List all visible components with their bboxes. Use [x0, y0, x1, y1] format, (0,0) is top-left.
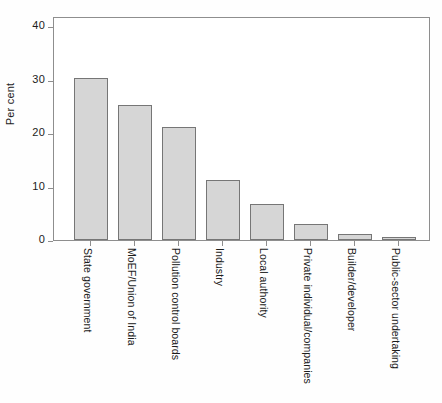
y-axis-title: Per cent: [4, 56, 16, 152]
y-tick-mark: [48, 241, 53, 242]
bar: [162, 127, 196, 240]
y-axis-tick: 20: [0, 134, 53, 135]
bar: [382, 237, 416, 240]
x-axis-label: State government: [82, 248, 94, 332]
y-axis-tick: 0: [0, 241, 53, 242]
bar-chart-figure: Per cent 010203040 State governmentMoEF/…: [0, 0, 442, 403]
y-axis-tick: 10: [0, 188, 53, 189]
x-tick-mark: [266, 241, 267, 246]
x-tick-mark: [178, 241, 179, 246]
bar: [250, 204, 284, 240]
y-tick-label: 0: [39, 233, 45, 245]
x-axis-label: Builder/developer: [346, 248, 358, 331]
x-tick-mark: [134, 241, 135, 246]
y-tick-label: 20: [32, 126, 45, 138]
x-axis-label: Pollution control boards: [170, 248, 182, 360]
x-tick-mark: [222, 241, 223, 246]
x-tick-mark: [310, 241, 311, 246]
x-axis-label: Industry: [214, 248, 226, 286]
bar: [338, 234, 372, 240]
plot-area: [53, 17, 430, 241]
bar: [294, 224, 328, 240]
x-axis-label: Local authority: [258, 248, 270, 318]
y-axis-tick: 30: [0, 81, 53, 82]
bar: [118, 105, 152, 240]
x-axis-label: MoEF/Union of India: [126, 248, 138, 346]
y-tick-label: 40: [32, 19, 45, 31]
bar: [74, 78, 108, 240]
y-tick-label: 10: [32, 180, 45, 192]
x-tick-mark: [354, 241, 355, 246]
x-axis-label: Private individual/companies: [302, 248, 314, 384]
y-tick-label: 30: [32, 73, 45, 85]
x-axis-label: Public-sector undertaking: [390, 248, 402, 369]
x-tick-mark: [90, 241, 91, 246]
x-tick-mark: [398, 241, 399, 246]
y-axis-tick: 40: [0, 27, 53, 28]
bar: [206, 180, 240, 240]
